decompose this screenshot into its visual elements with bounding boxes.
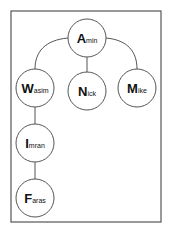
node-amin-rest: min <box>86 37 97 44</box>
node-mike-initial: M <box>127 81 138 96</box>
node-faras-rest: aras <box>32 197 46 204</box>
edge-amin-wasim <box>35 38 68 69</box>
node-wasim-rest: asim <box>34 87 49 94</box>
node-nick-rest: ick <box>87 90 96 97</box>
node-wasim: Wasim <box>16 69 54 107</box>
node-mike: Mike <box>118 69 156 107</box>
node-imran-rest: mran <box>29 142 45 149</box>
node-faras: Faras <box>16 179 54 217</box>
node-wasim-initial: W <box>21 81 34 96</box>
node-mike-rest: ike <box>138 87 147 94</box>
node-nick: Nick <box>68 72 106 110</box>
edge-amin-mike <box>106 38 137 69</box>
node-imran: Imran <box>16 124 54 162</box>
node-faras-initial: F <box>24 191 32 206</box>
tree-diagram: Amin Wasim Nick Mike Imran Faras <box>0 0 173 237</box>
node-amin: Amin <box>68 19 106 57</box>
node-nick-initial: N <box>78 84 87 99</box>
